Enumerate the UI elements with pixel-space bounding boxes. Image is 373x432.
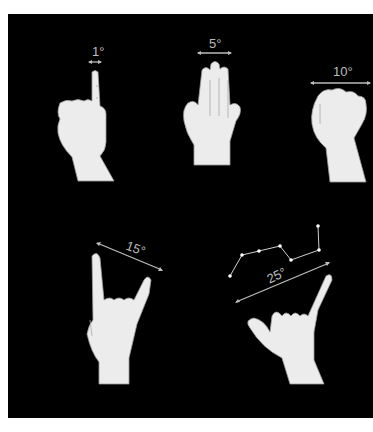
- star: [228, 274, 232, 278]
- star: [289, 258, 293, 262]
- hand-fist-icon: [312, 88, 367, 182]
- hand-three-fingers-icon: [184, 62, 241, 166]
- angle-arrow-5: [197, 51, 232, 55]
- figure-caption: [0, 424, 373, 432]
- angle-arrow-10: [310, 81, 371, 85]
- angle-label-5: 5°: [209, 36, 221, 51]
- angle-estimation-diagram: 1° 5° 10° 15°: [0, 0, 373, 432]
- star: [316, 224, 320, 228]
- star: [257, 249, 261, 253]
- hand-index-up-icon: [58, 71, 114, 182]
- angle-arrow-1: [88, 60, 102, 64]
- angle-label-1: 1°: [92, 44, 104, 59]
- star: [240, 253, 244, 257]
- gesture-fist: 10°: [310, 64, 371, 182]
- hand-horns-icon: [87, 253, 151, 384]
- star: [317, 248, 321, 252]
- gesture-one-finger: 1°: [58, 44, 114, 181]
- gesture-shaka: 25°: [228, 224, 332, 384]
- angle-label-25: 25°: [264, 264, 288, 286]
- gesture-three-fingers: 5°: [184, 36, 241, 165]
- star: [278, 244, 282, 248]
- gesture-horns: 15°: [87, 238, 163, 384]
- angle-label-10: 10°: [333, 64, 353, 79]
- hand-shaka-icon: [248, 275, 332, 384]
